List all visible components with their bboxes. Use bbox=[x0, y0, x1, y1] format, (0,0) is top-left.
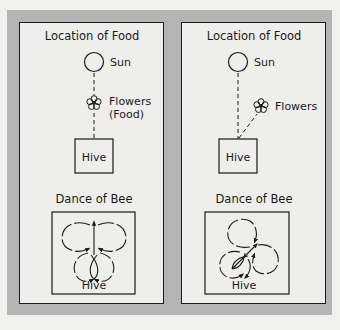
hive-label: Hive bbox=[226, 151, 251, 164]
flower-icon bbox=[254, 99, 268, 113]
hive-flower-dashed-line bbox=[239, 114, 257, 138]
sun-icon bbox=[229, 53, 248, 72]
bee-icon bbox=[90, 259, 98, 279]
flowers-label: Flowers bbox=[275, 100, 317, 113]
sun-icon bbox=[85, 53, 104, 72]
location-title: Location of Food bbox=[45, 29, 140, 43]
panel-right: Location of Food Sun Flowers Hive Dance … bbox=[181, 22, 326, 304]
flowers-label-food: (Food) bbox=[109, 108, 144, 121]
left-diagram: Location of Food Sun Flowers (Food) Hive… bbox=[20, 23, 165, 305]
flower-icon bbox=[87, 96, 101, 110]
panel-left: Location of Food Sun Flowers (Food) Hive… bbox=[19, 22, 164, 304]
right-diagram: Location of Food Sun Flowers Hive Dance … bbox=[182, 23, 327, 305]
waggle-dance-diagram bbox=[62, 223, 126, 282]
dance-hive-label: Hive bbox=[232, 279, 257, 292]
location-title: Location of Food bbox=[207, 29, 302, 43]
dance-title: Dance of Bee bbox=[55, 192, 132, 206]
waggle-dance-diagram bbox=[220, 219, 279, 278]
sun-label: Sun bbox=[110, 56, 131, 69]
flowers-label: Flowers bbox=[109, 95, 151, 108]
hive-label: Hive bbox=[82, 151, 107, 164]
dance-hive-label: Hive bbox=[82, 279, 107, 292]
sun-label: Sun bbox=[254, 56, 275, 69]
dance-title: Dance of Bee bbox=[215, 192, 292, 206]
